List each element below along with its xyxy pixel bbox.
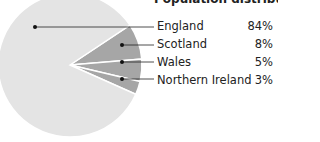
legend-value: 8% — [255, 37, 273, 51]
legend-label: England — [157, 19, 204, 33]
legend-label: Northern Ireland — [157, 73, 251, 87]
legend-value: 84% — [247, 19, 273, 33]
leader-dot — [33, 25, 37, 29]
legend-value: 3% — [255, 73, 273, 87]
legend-value: 5% — [255, 55, 273, 69]
legend-row-scotland: Scotland 8% — [157, 37, 273, 51]
leader-dot — [120, 77, 124, 81]
legend-row-northern-ireland: Northern Ireland 3% — [157, 73, 273, 87]
legend-label: Wales — [157, 55, 191, 69]
leader-dot — [120, 60, 124, 64]
legend-label: Scotland — [157, 37, 207, 51]
legend-row-wales: Wales 5% — [157, 55, 273, 69]
legend-row-england: England 84% — [157, 19, 273, 33]
leader-dot — [120, 43, 124, 47]
